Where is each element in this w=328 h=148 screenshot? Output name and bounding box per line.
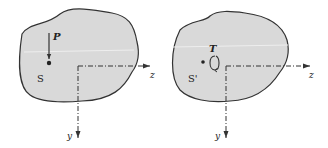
region-label-s-prime: S' <box>188 73 198 84</box>
load-label-p: P <box>52 31 61 42</box>
figure: P S z y T S' z y <box>0 0 328 148</box>
cross-section-region-s <box>20 9 139 102</box>
load-point <box>201 60 205 64</box>
cross-section-region-s-prime <box>173 11 289 101</box>
region-label-s: S <box>37 73 44 84</box>
y-axis-label: y <box>66 131 73 141</box>
left-panel: P S z y <box>20 9 155 141</box>
z-axis-label: z <box>149 70 155 80</box>
right-panel: T S' z y <box>173 11 315 141</box>
y-axis-label: y <box>214 131 221 141</box>
load-point <box>47 61 51 65</box>
z-axis-label: z <box>308 70 314 80</box>
